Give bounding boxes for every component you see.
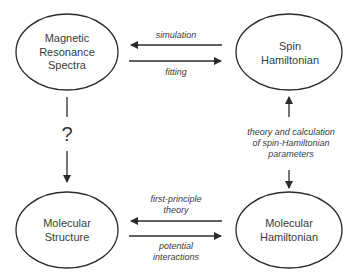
edge-label-line: parameters [247,149,335,160]
node-label-line: Resonance [39,45,95,59]
node-label-line: Spectra [39,59,95,73]
edge-label-simulation: simulation [156,30,197,41]
node-molecular-structure: Molecular Structure [43,217,91,244]
node-label-line: Molecular [43,217,91,231]
edge-label-theory-calculation: theory and calculation of spin-Hamiltoni… [247,127,335,160]
edge-label-fitting: fitting [165,67,187,78]
node-mr-spectra: Magnetic Resonance Spectra [39,32,95,73]
edge-label-line: theory [150,205,201,216]
node-label-line: Magnetic [39,32,95,46]
node-spin-hamiltonian: Spin Hamiltonian [261,40,319,67]
node-label-line: Spin [261,40,319,54]
edge-label-line: interactions [153,252,199,263]
edge-label-line: theory and calculation [247,127,335,138]
node-molecular-hamiltonian: Molecular Hamiltonian [260,217,318,244]
node-label-line: Structure [43,230,91,244]
edge-label-line: of spin-Hamiltonian [247,138,335,149]
node-label-line: Molecular [260,217,318,231]
question-mark: ? [61,123,72,146]
node-label-line: Hamiltonian [261,53,319,67]
edge-label-potential: potential interactions [153,241,199,263]
edge-label-line: first-principle [150,194,201,205]
edge-label-first-principle: first-principle theory [150,194,201,216]
node-label-line: Hamiltonian [260,230,318,244]
edge-label-line: potential [153,241,199,252]
